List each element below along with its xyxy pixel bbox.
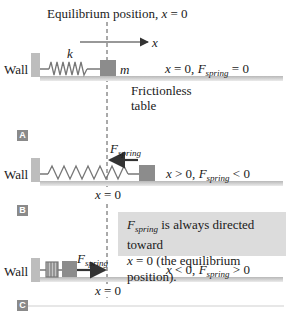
wall-c: [31, 258, 40, 282]
cond-b-F: F: [199, 166, 207, 181]
equilibrium-title: Equilibrium position, x = 0: [47, 7, 188, 20]
wall-label-c: Wall: [4, 265, 28, 278]
panel-label-b: B: [17, 205, 28, 216]
spring-constant-label: k: [67, 47, 73, 60]
force-label-b: Fspring: [110, 142, 141, 158]
cond-c-F: F: [199, 262, 207, 277]
note-sub: spring: [135, 224, 158, 234]
origin-label-b: x = 0: [95, 188, 121, 201]
block-c: [62, 261, 77, 277]
origin-c-eq: = 0: [101, 283, 121, 298]
cond-a-rel: = 0,: [171, 61, 198, 76]
wall-a: [31, 53, 40, 77]
wall-label-a: Wall: [4, 63, 28, 76]
cond-a-sub: spring: [206, 68, 229, 78]
cond-c-sub: spring: [207, 269, 230, 279]
mass-label: m: [120, 63, 129, 76]
title-eq: = 0: [167, 6, 187, 21]
condition-a: x = 0, Fspring = 0: [165, 62, 249, 78]
spring-c: [46, 262, 58, 277]
note-line-1: Fspring is always directed toward: [127, 217, 286, 253]
cond-b-sub: spring: [207, 173, 230, 183]
force-label-c: Fspring: [77, 252, 108, 268]
wall-b: [31, 158, 40, 182]
block-a: [100, 60, 116, 76]
note-line1-text: is always directed toward: [127, 217, 254, 252]
table-label: table: [131, 99, 156, 112]
note-box: Fspring is always directed toward x = 0 …: [118, 212, 286, 256]
condition-b: x > 0, Fspring < 0: [166, 167, 250, 183]
cond-c-rhs: > 0: [230, 262, 250, 277]
cond-c-rel: < 0,: [172, 262, 199, 277]
condition-c: x < 0, Fspring > 0: [166, 263, 250, 279]
spring-b: [48, 166, 128, 179]
x-axis-label: x: [152, 36, 158, 49]
force-b-F: F: [110, 141, 118, 156]
cond-a-rhs: = 0: [229, 61, 249, 76]
spring-a: [49, 62, 87, 75]
force-b-sub: spring: [118, 148, 141, 158]
block-b: [139, 165, 155, 181]
title-text: Equilibrium position,: [47, 6, 161, 21]
cond-b-rel: > 0,: [172, 166, 199, 181]
cond-a-F: F: [198, 61, 206, 76]
origin-label-c: x = 0: [95, 284, 121, 297]
wall-label-b: Wall: [4, 168, 28, 181]
force-c-sub: spring: [85, 258, 108, 268]
frictionless-label: Frictionless: [131, 84, 192, 97]
note-F: F: [127, 217, 135, 232]
panel-label-a: A: [17, 130, 28, 141]
panel-label-c: C: [17, 300, 28, 311]
origin-b-eq: = 0: [101, 187, 121, 202]
cond-b-rhs: < 0: [230, 166, 250, 181]
force-c-F: F: [77, 251, 85, 266]
